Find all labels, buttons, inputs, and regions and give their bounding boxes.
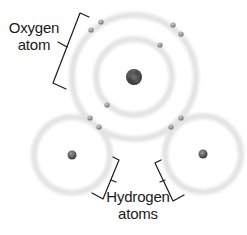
hydrogen-atoms-label: Hydrogen atoms [104,188,172,222]
oxygen-label-line2: atom [6,36,62,53]
electron [104,102,109,107]
electron [157,42,162,47]
hydrogen-label-line2: atoms [104,205,172,222]
oxygen-atom-label: Oxygen atom [6,19,62,53]
oxygen-nucleus [126,69,142,85]
electron [170,22,175,27]
electron [88,27,93,32]
water-molecule-diagram: Oxygen atom Hydrogen atoms [0,0,247,235]
orbits [34,15,241,193]
electron [96,124,101,129]
electron [178,31,183,36]
hydrogen-right-nucleus [199,150,208,159]
oxygen-label-line1: Oxygen [6,19,62,36]
electron [168,124,173,129]
hydrogen-label-line1: Hydrogen [104,188,172,205]
electron [178,115,183,120]
electron [87,115,92,120]
electron [98,19,103,24]
hydrogen-left-nucleus [68,151,77,160]
